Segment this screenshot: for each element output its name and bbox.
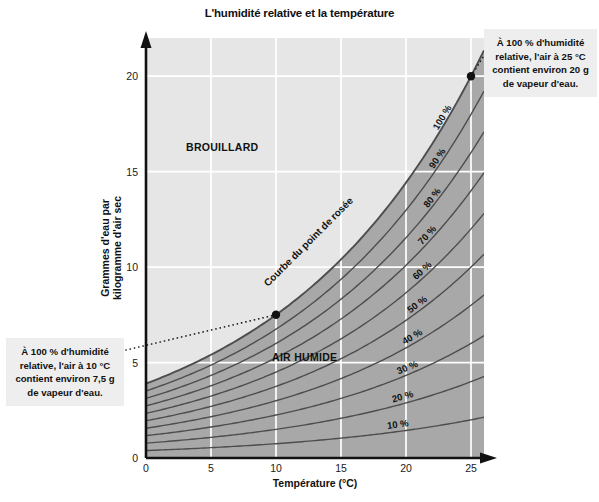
x-tick-label-25: 25 [465, 462, 477, 474]
y-axis-tick-labels: 05101520 [126, 70, 138, 464]
x-tick-label-10: 10 [270, 462, 282, 474]
y-tick-label-15: 15 [126, 166, 138, 178]
humid-air-zone-label: AIR HUMIDE [272, 351, 337, 363]
data-point-marker-25 [467, 72, 475, 80]
x-tick-label-0: 0 [143, 462, 149, 474]
psychrometric-chart: L'humidité relative et la température [0, 0, 599, 502]
y-axis-title-line1: Grammes d'eau par [99, 199, 111, 297]
callout-top-right-line4: de vapeur d'eau. [490, 77, 591, 91]
x-tick-label-5: 5 [208, 462, 214, 474]
data-point-marker-10 [272, 311, 280, 319]
x-axis-tick-labels: 0510152025 [143, 462, 477, 474]
x-tick-label-20: 20 [400, 462, 412, 474]
callout-top-right-line3: contient environ 20 g [490, 63, 591, 77]
callout-bottom-left: À 100 % d'humidité relative, l'air à 10 … [6, 338, 124, 406]
fog-zone-label: BROUILLARD [186, 141, 259, 153]
x-tick-label-15: 15 [335, 462, 347, 474]
callout-bottom-left-line1: À 100 % d'humidité [12, 345, 118, 359]
callout-top-right: À 100 % d'humidité relative, l'air à 25 … [484, 29, 597, 97]
x-axis-arrow [480, 453, 497, 464]
callout-bottom-left-line3: contient environ 7,5 g [12, 372, 118, 386]
callout-top-right-line2: relative, l'air à 25 °C [490, 50, 591, 64]
y-axis-title-line2: kilogramme d'air sec [111, 196, 123, 300]
callout-bottom-left-line4: de vapeur d'eau. [12, 386, 118, 400]
y-tick-label-5: 5 [132, 357, 138, 369]
callout-top-right-line1: À 100 % d'humidité [490, 36, 591, 50]
y-tick-label-10: 10 [126, 261, 138, 273]
callout-bottom-left-line2: relative, l'air à 10 °C [12, 359, 118, 373]
x-axis-title: Température (°C) [273, 477, 358, 489]
y-tick-label-0: 0 [132, 452, 138, 464]
y-tick-label-20: 20 [126, 70, 138, 82]
